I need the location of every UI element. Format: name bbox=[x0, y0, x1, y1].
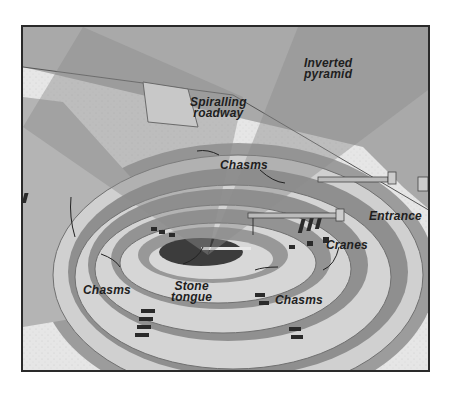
label-cranes: Cranes bbox=[326, 240, 368, 251]
entrance-gate bbox=[418, 177, 428, 191]
label-inverted-pyramid: Inverted pyramid bbox=[304, 58, 352, 80]
spiral-pit-illustration bbox=[23, 27, 430, 372]
label-stone-tongue: Stone tongue bbox=[171, 281, 212, 303]
label-chasms-right: Chasms bbox=[275, 295, 323, 306]
label-entrance: Entrance bbox=[369, 211, 422, 222]
label-spiralling-roadway: Spiralling roadway bbox=[190, 97, 247, 119]
label-chasms-left: Chasms bbox=[83, 285, 131, 296]
label-chasms-top: Chasms bbox=[220, 160, 268, 171]
diagram-frame: Inverted pyramid Spiralling roadway Chas… bbox=[21, 25, 430, 372]
